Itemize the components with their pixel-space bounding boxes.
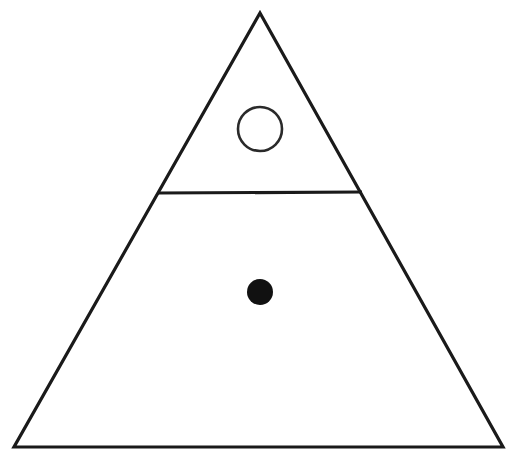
diagram-canvas <box>0 0 518 468</box>
background-rect <box>0 0 518 468</box>
triangle-diagram-svg <box>0 0 518 468</box>
horizontal-divider-line <box>158 192 362 193</box>
filled-dot-icon <box>247 279 273 305</box>
